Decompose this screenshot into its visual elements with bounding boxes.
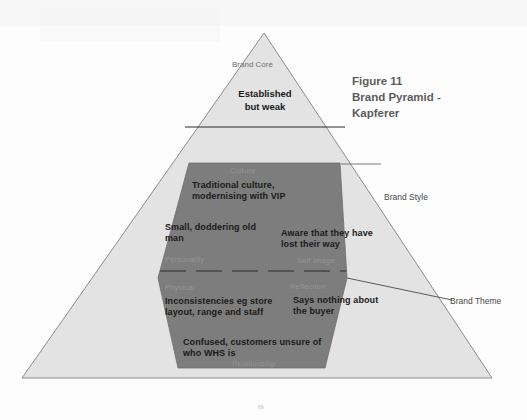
page-number: 69: [258, 404, 264, 410]
brand-core-value-line1: Established: [205, 88, 325, 99]
brand-core-value-line2: but weak: [205, 101, 325, 112]
facet-label-reflection: Reflection: [290, 283, 325, 292]
facet-content-personality: Small, doddering old man: [165, 222, 256, 243]
figure-title-line3: Kapferer: [352, 106, 441, 122]
ring-label-brand-style: Brand Style: [384, 192, 428, 202]
figure-title-line2: Brand Pyramid -: [352, 90, 441, 106]
figure-page: Brand Core Established but weak Culture …: [0, 0, 527, 420]
facet-content-relationship: Confused, customers unsure of who WHS is: [183, 337, 321, 358]
facet-content-self-image: Aware that they have lost their way: [281, 228, 373, 249]
facet-label-physical: Physical: [165, 284, 195, 293]
facet-content-culture: Traditional culture, modernising with VI…: [192, 180, 286, 201]
brand-core-label: Brand Core: [232, 60, 273, 69]
figure-title: Figure 11 Brand Pyramid - Kapferer: [352, 74, 441, 122]
facet-label-culture: Culture: [230, 167, 256, 176]
facet-content-reflection: Says nothing about the buyer: [293, 295, 378, 316]
facet-content-physical: Inconsistencies eg store layout, range a…: [165, 296, 272, 317]
ring-label-brand-theme: Brand Theme: [450, 296, 501, 306]
facet-label-relationship: Relationship: [232, 360, 276, 369]
facet-label-self-image: Self Image: [297, 257, 335, 266]
facet-label-personality: Personality: [165, 256, 204, 265]
figure-title-line1: Figure 11: [352, 74, 441, 90]
